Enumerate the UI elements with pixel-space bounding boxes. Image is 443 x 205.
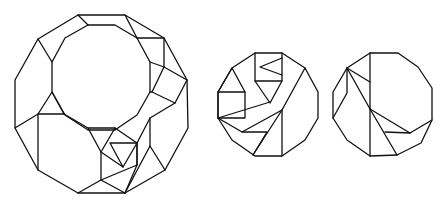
middle-dodecagon-edge	[255, 53, 282, 81]
large-dodecagon-edge	[110, 143, 137, 167]
right-dodecagon-edge	[370, 109, 432, 133]
right-dodecagon-edge	[385, 132, 410, 133]
middle-dodecagon-edge	[218, 53, 318, 156]
middle-dodecagon-figure	[218, 53, 318, 156]
middle-dodecagon-edge	[242, 110, 282, 132]
large-dodecagon-edge	[137, 103, 175, 143]
right-dodecagon-edge	[333, 68, 347, 118]
large-dodecagon-edge	[15, 92, 64, 128]
large-dodecagon-edge	[78, 165, 137, 193]
middle-dodecagon-edge	[260, 58, 282, 75]
large-dodecagon-edge	[38, 39, 52, 62]
middle-dodecagon-edge	[218, 68, 245, 92]
large-dodecagon-edge	[52, 25, 150, 130]
large-dodecagon-edge	[88, 128, 115, 152]
large-dodecagon-edge	[101, 152, 123, 167]
right-dodecagon-edge	[347, 68, 370, 109]
middle-dodecagon-edge	[218, 118, 267, 155]
middle-dodecagon-edge	[255, 81, 282, 103]
large-dodecagon-figure	[15, 15, 188, 193]
large-dodecagon-edge	[64, 114, 88, 128]
diagram-canvas	[0, 0, 443, 205]
large-dodecagon-edge	[101, 152, 125, 193]
middle-dodecagon-edge	[218, 102, 270, 118]
large-dodecagon-edge	[152, 67, 187, 103]
large-dodecagon-edge	[150, 118, 165, 170]
right-dodecagon-figure	[333, 53, 432, 156]
large-dodecagon-edge	[78, 15, 88, 25]
